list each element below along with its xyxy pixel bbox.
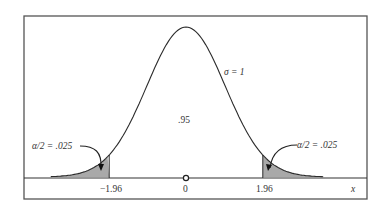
tick-label-zero: 0 — [183, 185, 188, 195]
left-tail-label: α/2 = .025 — [32, 142, 72, 152]
tick-label-neg-1-96: −1.96 — [100, 185, 122, 195]
mean-marker — [183, 175, 188, 180]
normal-distribution-chart — [0, 0, 387, 213]
right-tail-label: α/2 = .025 — [297, 141, 337, 151]
center-area-label: .95 — [178, 116, 190, 126]
x-axis-label: x — [351, 185, 355, 195]
chart-frame — [24, 16, 367, 199]
sigma-label: σ = 1 — [224, 68, 245, 78]
normal-curve — [51, 27, 323, 177]
tick-label-1-96: 1.96 — [256, 185, 273, 195]
